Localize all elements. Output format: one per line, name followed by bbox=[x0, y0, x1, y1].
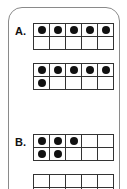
counter-dot-icon bbox=[86, 66, 94, 74]
ten-frame-cell bbox=[82, 148, 98, 161]
counter-dot-icon bbox=[70, 26, 78, 34]
ten-frame-a2 bbox=[33, 63, 114, 90]
worksheet-page: A. B. bbox=[0, 0, 127, 189]
ten-frame-cell bbox=[82, 175, 98, 188]
ten-frame-cell bbox=[66, 188, 82, 189]
ten-frame-cell bbox=[34, 37, 50, 50]
counter-dot-icon bbox=[86, 26, 94, 34]
ten-frame-cell bbox=[50, 135, 66, 148]
ten-frame-cell bbox=[82, 64, 98, 77]
counter-dot-icon bbox=[54, 66, 62, 74]
counter-dot-icon bbox=[38, 66, 46, 74]
counter-dot-icon bbox=[38, 26, 46, 34]
counter-dot-icon bbox=[38, 150, 46, 158]
counter-dot-icon bbox=[38, 137, 46, 145]
ten-frame-cell bbox=[34, 77, 50, 90]
ten-frame-cell bbox=[98, 175, 114, 188]
ten-frame-cell bbox=[98, 37, 114, 50]
ten-frame-cell bbox=[66, 77, 82, 90]
ten-frame-cell bbox=[50, 24, 66, 37]
ten-frame-cell bbox=[50, 175, 66, 188]
ten-frame-cell bbox=[82, 135, 98, 148]
ten-frame-cell bbox=[82, 24, 98, 37]
ten-frame-cell bbox=[98, 64, 114, 77]
counter-dot-icon bbox=[54, 137, 62, 145]
ten-frame-cell bbox=[50, 77, 66, 90]
ten-frame-cell bbox=[82, 188, 98, 189]
counter-dot-icon bbox=[54, 150, 62, 158]
problem-label-b: B. bbox=[15, 137, 26, 148]
ten-frame-cell bbox=[34, 64, 50, 77]
ten-frame-b2 bbox=[33, 174, 114, 189]
ten-frame-cell bbox=[34, 148, 50, 161]
ten-frame-cell bbox=[34, 135, 50, 148]
problem-label-a: A. bbox=[15, 26, 26, 37]
ten-frame-cell bbox=[66, 148, 82, 161]
counter-dot-icon bbox=[70, 137, 78, 145]
ten-frame-cell bbox=[82, 37, 98, 50]
ten-frame-cell bbox=[50, 188, 66, 189]
ten-frame-cell bbox=[98, 24, 114, 37]
ten-frame-a1 bbox=[33, 23, 114, 50]
counter-dot-icon bbox=[38, 79, 46, 87]
ten-frame-cell bbox=[66, 175, 82, 188]
ten-frame-cell bbox=[98, 188, 114, 189]
counter-dot-icon bbox=[102, 26, 110, 34]
ten-frame-b1 bbox=[33, 134, 114, 161]
ten-frame-cell bbox=[66, 135, 82, 148]
ten-frame-cell bbox=[66, 64, 82, 77]
ten-frame-cell bbox=[98, 135, 114, 148]
ten-frame-cell bbox=[50, 148, 66, 161]
ten-frame-cell bbox=[82, 77, 98, 90]
ten-frame-cell bbox=[50, 37, 66, 50]
ten-frame-cell bbox=[98, 148, 114, 161]
counter-dot-icon bbox=[102, 66, 110, 74]
ten-frame-cell bbox=[34, 24, 50, 37]
ten-frame-cell bbox=[66, 24, 82, 37]
ten-frame-cell bbox=[34, 175, 50, 188]
counter-dot-icon bbox=[54, 26, 62, 34]
ten-frame-cell bbox=[66, 37, 82, 50]
ten-frame-cell bbox=[34, 188, 50, 189]
ten-frame-cell bbox=[98, 77, 114, 90]
ten-frame-cell bbox=[50, 64, 66, 77]
counter-dot-icon bbox=[70, 66, 78, 74]
